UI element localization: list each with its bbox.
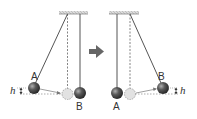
label-a-before: A bbox=[31, 71, 38, 82]
ball-b bbox=[157, 82, 169, 94]
label-a-after: A bbox=[113, 101, 120, 112]
ball-a bbox=[28, 82, 40, 94]
ghost-ball-rest bbox=[62, 89, 73, 100]
label-h-after: h bbox=[180, 84, 186, 96]
label-h-before: h bbox=[10, 84, 16, 96]
ball-b bbox=[74, 87, 86, 99]
ghost-ball-rest bbox=[125, 89, 136, 100]
label-b-after: B bbox=[158, 71, 165, 82]
transition-arrow-icon bbox=[89, 45, 104, 58]
h-arrow-down bbox=[20, 92, 23, 95]
pendulum-diagram: A B h A B h bbox=[0, 0, 197, 119]
ceiling-bar bbox=[109, 11, 139, 14]
string-b bbox=[130, 14, 161, 83]
label-b-before: B bbox=[76, 101, 83, 112]
string-a bbox=[35, 14, 68, 84]
ceiling-bar bbox=[59, 11, 88, 14]
motion-line bbox=[136, 89, 156, 93]
after-panel: A B h bbox=[109, 11, 186, 112]
ball-a bbox=[111, 87, 123, 99]
before-panel: A B h bbox=[10, 11, 88, 112]
motion-arrowhead bbox=[153, 88, 157, 92]
